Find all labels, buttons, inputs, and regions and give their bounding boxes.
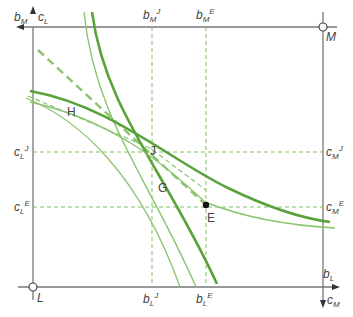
contract-line-dashed [28, 96, 206, 190]
label-sup: E [339, 199, 344, 208]
label-sub: M [332, 152, 339, 161]
label-base: b [196, 292, 203, 306]
point-label-E: E [207, 212, 215, 224]
label-sub: L [330, 274, 334, 283]
tick-label-cM-J: cMJ [326, 145, 343, 161]
label-base: b [143, 292, 150, 306]
label-sub: L [44, 17, 48, 26]
label-sup: J [156, 7, 160, 16]
arrow-right-icon [332, 284, 340, 290]
tick-label-cM-E: cME [326, 200, 344, 216]
arrow-up-icon [30, 6, 36, 14]
label-base: b [143, 8, 150, 22]
point-label-G: G [158, 182, 167, 194]
tick-label-bM-J: bMJ [143, 8, 160, 24]
axis-arrows [16, 6, 340, 308]
origin-label-M: M [326, 31, 336, 43]
axis-label-cL: cL [38, 11, 48, 26]
label-base: b [14, 10, 21, 24]
edgeworth-box-diagram [0, 0, 353, 317]
axis-label-cM: cM [327, 294, 340, 309]
axis-label-bL: bL [323, 268, 334, 283]
point-label-J: J [150, 145, 156, 157]
label-sup: E [24, 199, 29, 208]
label-sup: J [154, 291, 158, 300]
label-base: b [196, 8, 203, 22]
tick-label-cL-E: cLE [14, 200, 30, 216]
label-sub: M [21, 17, 28, 26]
label-sub: L [20, 152, 24, 161]
label-sup: E [207, 291, 212, 300]
tick-label-bL-J: bLJ [143, 292, 158, 308]
tick-label-bM-E: bME [196, 8, 215, 24]
label-sub: L [203, 299, 207, 308]
label-base: b [323, 267, 330, 281]
label-sub: L [150, 299, 154, 308]
price-line-dashed [38, 50, 206, 205]
label-sup: J [24, 144, 28, 153]
label-sub: L [20, 207, 24, 216]
box-axes [18, 12, 337, 303]
label-sup: J [339, 144, 343, 153]
label-sub: M [333, 300, 340, 309]
tick-label-bL-E: bLE [196, 292, 212, 308]
label-sub: M [150, 15, 157, 24]
origin-L-icon [29, 283, 37, 291]
label-sup: E [209, 7, 214, 16]
arrow-down-icon [320, 300, 326, 308]
indifference-curve-L-lower [26, 98, 180, 287]
axis-label-bM: bM [14, 11, 27, 26]
point-label-H: H [67, 106, 76, 118]
origin-label-L: L [37, 292, 44, 304]
tick-label-cL-J: cLJ [14, 145, 28, 161]
label-sub: M [332, 207, 339, 216]
label-sub: M [203, 15, 210, 24]
indifference-curve-M-light [30, 102, 335, 228]
point-E-marker [203, 202, 209, 208]
